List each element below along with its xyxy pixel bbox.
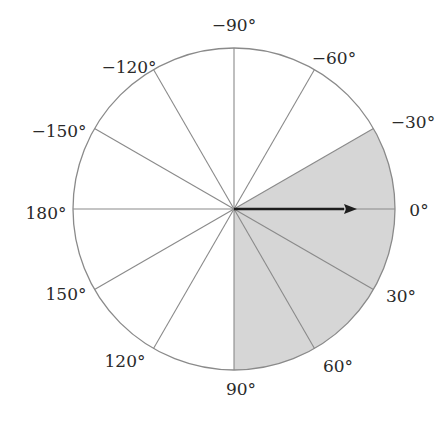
label-180: 180° [26,203,67,223]
shaded-sector [234,129,395,371]
spoke-line [95,209,234,290]
label-150: 150° [46,284,87,304]
label-30: 30° [386,286,416,306]
label-0: 0° [409,200,428,220]
label-90: 90° [226,379,256,399]
angle-wheel-diagram: −90° −60° −120° −30° −150° 180° 0° 150° … [0,0,445,421]
shaded-sector-fill [234,129,395,371]
label-120: 120° [105,351,146,371]
label-neg30: −30° [391,112,435,132]
spoke-line [95,129,234,210]
label-neg120: −120° [101,57,156,77]
label-neg60: −60° [312,48,356,68]
label-neg90: −90° [212,15,256,35]
label-neg150: −150° [31,121,86,141]
spoke-line [154,70,235,209]
spoke-line [154,209,235,348]
label-60: 60° [323,356,353,376]
